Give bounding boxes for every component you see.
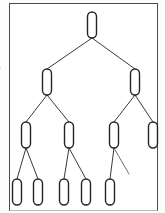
tree-edge-left-lr — [47, 95, 69, 122]
tree-edge-right-rr — [135, 95, 153, 122]
tree-edge-right-rl — [114, 95, 135, 122]
tree-leaf-5 — [106, 179, 115, 205]
tree-edge-root-left — [47, 38, 92, 69]
tree-node-r-l — [110, 122, 119, 148]
tree-edge-lr-leaf4 — [69, 148, 86, 179]
tree-node-right — [131, 69, 140, 95]
tree-leaf-2 — [34, 179, 43, 205]
tree-node-layer — [13, 12, 158, 205]
tree-diagram-canvas — [0, 0, 165, 213]
tree-edge-rl-dangling — [114, 148, 129, 174]
tree-leaf-3 — [60, 179, 69, 205]
tree-leaf-4 — [82, 179, 91, 205]
tree-edge-lr-leaf3 — [64, 148, 69, 179]
tree-edge-left-ll — [26, 95, 47, 122]
tree-edge-ll-leaf2 — [26, 148, 38, 179]
tree-node-left — [43, 69, 52, 95]
figure-root: b a — [0, 0, 165, 213]
tree-edge-ll-leaf1 — [17, 148, 26, 179]
tree-node-r-r — [149, 122, 158, 148]
tree-edge-layer — [17, 38, 153, 179]
tree-node-root — [88, 12, 97, 38]
tree-node-l-l — [22, 122, 31, 148]
tree-edge-rl-leaf5 — [110, 148, 114, 179]
tree-edge-root-right — [92, 38, 135, 69]
tree-leaf-1 — [13, 179, 22, 205]
tree-node-l-r — [65, 122, 74, 148]
